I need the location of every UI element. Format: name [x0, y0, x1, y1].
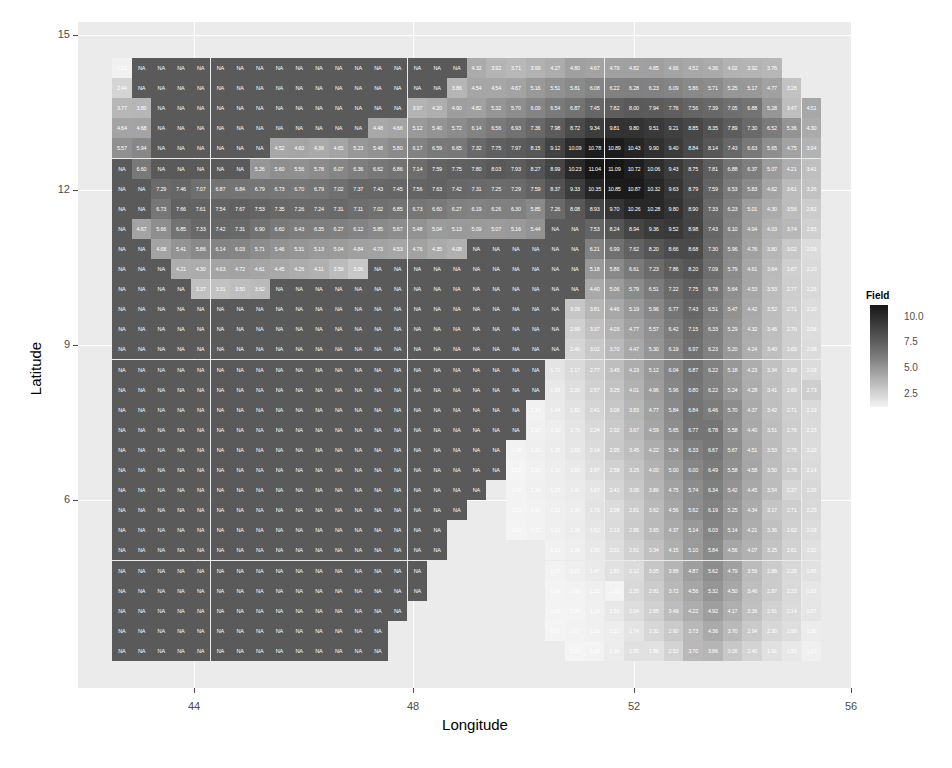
- heatmap-cell: 1.21: [585, 581, 605, 601]
- heatmap-cell: NA: [388, 360, 408, 380]
- heatmap-cell: NA: [526, 299, 546, 319]
- heatmap-cell: NA: [112, 601, 132, 621]
- heatmap-cell: 4.73: [368, 239, 388, 259]
- heatmap-cell: 4.85: [644, 58, 664, 78]
- heatmap-cell: 4.30: [802, 118, 822, 138]
- heatmap-cell: NA: [427, 540, 447, 560]
- heatmap-cell: 5.14: [723, 520, 743, 540]
- heatmap-cell: NA: [427, 420, 447, 440]
- heatmap-cell: NA: [191, 400, 211, 420]
- heatmap-cell: NA: [467, 380, 487, 400]
- heatmap-cell: NA: [191, 118, 211, 138]
- heatmap-cell: NA: [270, 380, 290, 400]
- heatmap-cell: NA: [132, 440, 152, 460]
- heatmap-cell: 5.70: [723, 400, 743, 420]
- heatmap-cell: 3.36: [742, 601, 762, 621]
- heatmap-cell: NA: [132, 540, 152, 560]
- heatmap-cell: 5.04: [427, 219, 447, 239]
- heatmap-cell: NA: [368, 299, 388, 319]
- heatmap-cell: NA: [191, 520, 211, 540]
- heatmap-cell: 2.25: [624, 581, 644, 601]
- heatmap-cell: 6.65: [447, 138, 467, 158]
- heatmap-cell: NA: [408, 319, 428, 339]
- heatmap-cell: 7.39: [703, 98, 723, 118]
- heatmap-cell: 1.16: [585, 601, 605, 621]
- heatmap-cell: 1.10: [526, 500, 546, 520]
- heatmap-cell: 5.65: [664, 420, 684, 440]
- heatmap-cell: 7.05: [723, 98, 743, 118]
- heatmap-cell: 3.51: [762, 420, 782, 440]
- heatmap-cell: 9.63: [664, 179, 684, 199]
- heatmap-cell: 4.27: [545, 58, 565, 78]
- heatmap-cell: NA: [270, 480, 290, 500]
- heatmap-cell: NA: [427, 460, 447, 480]
- heatmap-cell: 1.03: [545, 601, 565, 621]
- heatmap-cell: NA: [289, 460, 309, 480]
- heatmap-cell: 8.85: [683, 118, 703, 138]
- heatmap-cell: NA: [309, 339, 329, 359]
- heatmap-cell: NA: [191, 621, 211, 641]
- heatmap-cell: 4.37: [664, 520, 684, 540]
- heatmap-cell: NA: [486, 400, 506, 420]
- heatmap-cell: NA: [151, 78, 171, 98]
- heatmap-cell: NA: [230, 118, 250, 138]
- heatmap-cell: NA: [211, 440, 231, 460]
- heatmap-cell: 4.76: [408, 239, 428, 259]
- heatmap-cell: 7.75: [447, 159, 467, 179]
- heatmap-cell: NA: [447, 460, 467, 480]
- heatmap-cell: 2.40: [565, 339, 585, 359]
- heatmap-cell: NA: [388, 581, 408, 601]
- heatmap-cell: 2.88: [762, 561, 782, 581]
- heatmap-cell: 1.36: [565, 520, 585, 540]
- heatmap-cell: NA: [467, 279, 487, 299]
- heatmap-cell: 6.77: [683, 420, 703, 440]
- heatmap-cell: NA: [112, 319, 132, 339]
- heatmap-cell: NA: [132, 561, 152, 581]
- heatmap-cell: NA: [348, 420, 368, 440]
- heatmap-cell: 3.25: [605, 380, 625, 400]
- heatmap-cell: 3.49: [664, 601, 684, 621]
- heatmap-cell: 2.28: [782, 561, 802, 581]
- legend-colorbar: [870, 305, 888, 407]
- heatmap-cell: NA: [191, 360, 211, 380]
- heatmap-cell: NA: [151, 400, 171, 420]
- heatmap-cell: NA: [270, 58, 290, 78]
- heatmap-cell: 5.23: [348, 138, 368, 158]
- heatmap-cell: NA: [230, 319, 250, 339]
- heatmap-cell: NA: [151, 480, 171, 500]
- heatmap-cell: NA: [467, 400, 487, 420]
- heatmap-cell: 1.26: [565, 540, 585, 560]
- heatmap-cell: 2.42: [605, 480, 625, 500]
- heatmap-cell: NA: [427, 360, 447, 380]
- heatmap-cell: 5.96: [664, 380, 684, 400]
- heatmap-cell: 5.67: [723, 440, 743, 460]
- heatmap-cell: NA: [250, 299, 270, 319]
- heatmap-cell: NA: [270, 440, 290, 460]
- heatmap-cell: NA: [191, 440, 211, 460]
- heatmap-cell: 5.00: [664, 460, 684, 480]
- heatmap-cell: NA: [467, 460, 487, 480]
- heatmap-cell: NA: [486, 380, 506, 400]
- y-tick-mark: [73, 35, 78, 36]
- heatmap-cell: NA: [388, 98, 408, 118]
- heatmap-cell: NA: [329, 78, 349, 98]
- heatmap-cell: 4.40: [742, 420, 762, 440]
- heatmap-cell: 2.10: [802, 299, 822, 319]
- heatmap-cell: 8.84: [683, 138, 703, 158]
- heatmap-cell: 3.64: [762, 259, 782, 279]
- heatmap-cell: 1.02: [545, 621, 565, 641]
- heatmap-cell: NA: [368, 279, 388, 299]
- heatmap-cell: NA: [250, 420, 270, 440]
- heatmap-cell: NA: [230, 601, 250, 621]
- heatmap-cell: 1.47: [585, 561, 605, 581]
- heatmap-cell: NA: [171, 601, 191, 621]
- heatmap-cell: NA: [368, 440, 388, 460]
- heatmap-cell: 3.50: [762, 460, 782, 480]
- heatmap-cell: NA: [427, 58, 447, 78]
- heatmap-cell: NA: [309, 380, 329, 400]
- heatmap-cell: NA: [230, 500, 250, 520]
- heatmap-cell: NA: [309, 601, 329, 621]
- heatmap-cell: 5.46: [270, 239, 290, 259]
- heatmap-cell: NA: [230, 561, 250, 581]
- heatmap-cell: 4.90: [447, 98, 467, 118]
